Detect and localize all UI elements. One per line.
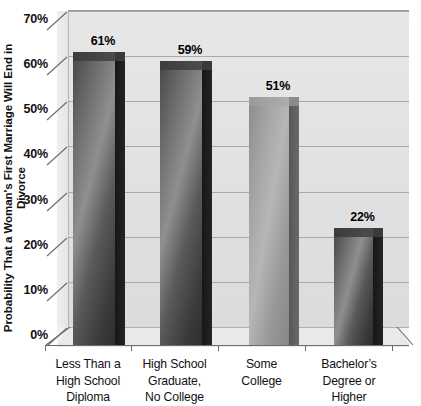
bar-top-bevel [289,97,299,107]
bar-top-face [334,228,373,237]
bar-side-face [373,237,383,345]
x-axis-category-label: High SchoolGraduate,No College [131,356,218,406]
y-axis-tick [46,11,68,31]
x-axis-category-line: High School [45,373,131,390]
bar-value-label: 59% [164,43,216,57]
plot-left-edge [68,11,69,328]
x-axis-line [45,345,409,346]
x-axis-category-line: College [218,373,305,390]
bar-top-face [160,61,202,70]
bar [249,97,299,345]
x-axis-category-line: Higher [305,389,393,406]
x-axis-category-line: High School [131,356,218,373]
x-axis-category-line: No College [131,389,218,406]
y-axis-tick [46,327,68,347]
x-axis-category-label: Less Than aHigh SchoolDiploma [45,356,131,406]
x-axis-category-line: Diploma [45,389,131,406]
bar [160,61,212,345]
x-axis-tick [45,345,46,351]
y-axis-tick [46,237,68,257]
bar-front-face [160,70,202,345]
bar-side-face [202,70,212,345]
gridline [68,11,409,12]
x-axis-tick [218,345,219,351]
bar-front-face [249,106,289,345]
x-axis-category-line: Less Than a [45,356,131,373]
y-axis-title: Probability That a Woman's First Marriag… [1,23,27,353]
bar-value-label: 61% [77,34,129,48]
y-axis-tick [46,146,68,166]
bar-top-bevel [115,52,125,62]
x-axis-category-line: Some [218,356,305,373]
x-axis-category-line: Graduate, [131,373,218,390]
bar-side-face [289,106,299,345]
bar-front-face [334,237,373,345]
bar-chart: 70%60%50%40%30%20%10%0% Probability That… [0,0,421,406]
x-axis-tick [392,345,393,351]
y-axis-tick [46,282,68,302]
bar-value-label: 51% [253,79,303,93]
y-axis-tick [46,192,68,212]
bar-value-label: 22% [338,210,387,224]
bar-side-face [115,61,125,345]
bar [334,228,383,345]
bar-top-face [249,97,289,106]
y-axis-tick [46,101,68,121]
x-axis-category-label: SomeCollege [218,356,305,389]
x-axis-category-label: Bachelor’sDegree orHigher [305,356,393,406]
x-axis-tick [305,345,306,351]
x-axis-category-line: Degree or [305,373,393,390]
x-axis-category-line: Bachelor’s [305,356,393,373]
x-axis-tick [131,345,132,351]
floor-right-diagonal-icon [395,327,415,346]
bar [73,52,125,345]
bar-top-face [73,52,115,61]
bar-top-bevel [202,61,212,71]
bar-front-face [73,61,115,345]
bar-top-bevel [373,228,383,238]
y-axis-tick [46,56,68,76]
